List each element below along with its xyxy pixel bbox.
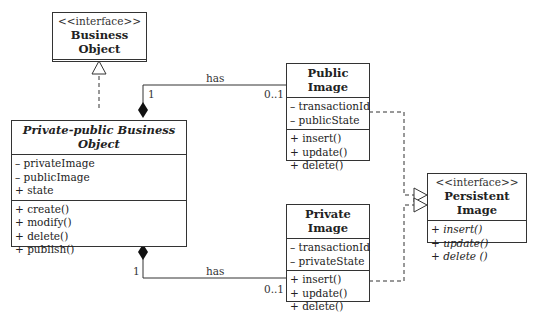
multiplicity-top-target: 0..1 [264, 88, 284, 100]
operation: + delete() [15, 230, 183, 244]
operation: + modify() [15, 216, 183, 230]
operation: + update() [290, 287, 366, 301]
operations-compartment: + insert() + update() + delete() [287, 130, 369, 175]
operation: + delete() [290, 159, 366, 173]
attributes-compartment: – transactionId – privateState [287, 239, 369, 271]
operation: + delete() [290, 300, 366, 314]
attribute: – publicImage [15, 171, 183, 185]
multiplicity-bottom-target: 0..1 [264, 283, 284, 295]
realization-line-private-image [369, 205, 414, 281]
realization-arrowhead-private-image [414, 198, 427, 212]
class-name: Business Object [55, 28, 144, 56]
operation: + create() [15, 203, 183, 217]
attribute: – transactionId [290, 241, 366, 255]
composition-diamond-top [138, 102, 148, 118]
class-header: Private-public Business Object [12, 121, 186, 155]
class-name: Private-public Business Object [14, 123, 184, 151]
operations-compartment: + insert() + update() + delete () [428, 221, 526, 266]
class-private-image[interactable]: Private Image – transactionId – privateS… [286, 204, 370, 302]
attribute: + state [15, 184, 183, 198]
stereotype-label: <<interface>> [55, 15, 144, 28]
class-name: Private Image [289, 207, 367, 235]
attribute: – privateImage [15, 157, 183, 171]
multiplicity-bottom-source: 1 [133, 265, 140, 277]
attribute: – transactionId [290, 100, 366, 114]
class-name: Public Image [289, 66, 367, 94]
multiplicity-top-source: 1 [148, 88, 155, 100]
attribute: – publicState [290, 114, 366, 128]
operation: + delete () [431, 250, 523, 264]
realization-line-public-image [369, 112, 414, 195]
operation: + insert() [431, 223, 523, 237]
class-header: Public Image [287, 64, 369, 98]
composition-line-public-image [143, 85, 310, 106]
operation: + publish() [15, 243, 183, 257]
association-label-has-bottom: has [206, 265, 224, 277]
operation: + insert() [290, 132, 366, 146]
operations-compartment: + create() + modify() + delete() + publi… [12, 201, 186, 259]
operation: + update() [431, 237, 523, 251]
class-business-object[interactable]: <<interface>> Business Object [52, 12, 147, 62]
class-header: Private Image [287, 205, 369, 239]
attributes-compartment: – transactionId – publicState [287, 98, 369, 130]
composition-line-private-image [143, 258, 310, 278]
attributes-compartment: – privateImage – publicImage + state [12, 155, 186, 201]
stereotype-label: <<interface>> [430, 176, 524, 189]
class-name: Persistent Image [430, 189, 524, 217]
operation: + update() [290, 146, 366, 160]
class-private-public-business-object[interactable]: Private-public Business Object – private… [11, 120, 187, 247]
class-header: <<interface>> Persistent Image [428, 174, 526, 221]
association-label-has-top: has [206, 72, 224, 84]
empty-compartment [53, 60, 146, 82]
attribute: – privateState [290, 255, 366, 269]
operation: + insert() [290, 273, 366, 287]
class-header: <<interface>> Business Object [53, 13, 146, 60]
class-public-image[interactable]: Public Image – transactionId – publicSta… [286, 63, 370, 161]
class-persistent-image[interactable]: <<interface>> Persistent Image + insert(… [427, 173, 527, 243]
operations-compartment: + insert() + update() + delete() [287, 271, 369, 316]
